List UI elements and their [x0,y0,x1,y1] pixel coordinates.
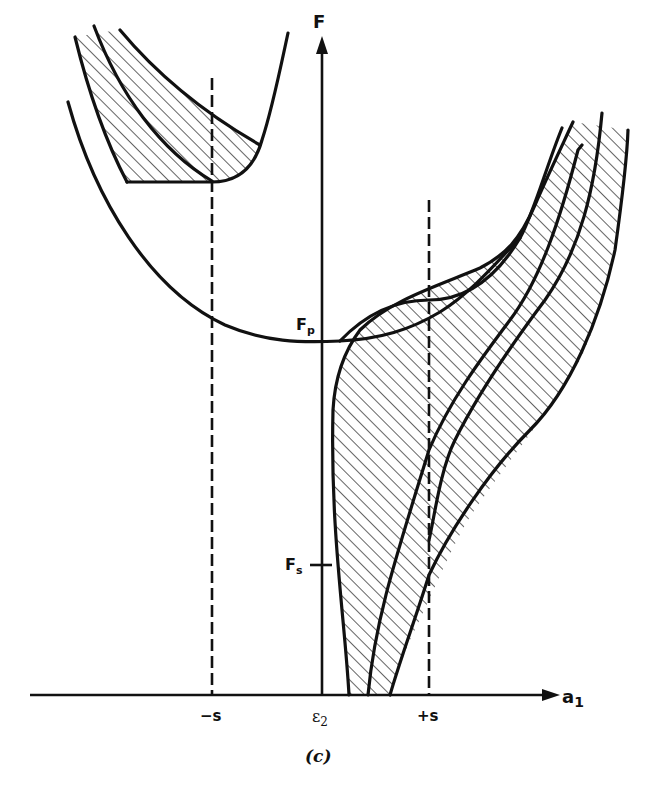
x-axis-label: a1 [562,686,584,710]
x-axis-arrowhead [542,689,560,701]
tick-label-epsilon-2: ε2 [312,707,328,729]
fs-label: Fs [285,555,303,577]
upper-left-hatched-band [75,26,288,182]
y-axis-label: F [313,11,325,32]
figure-caption: (c) [305,746,331,766]
y-axis-arrowhead [316,36,328,54]
fp-label: Fp [296,315,315,337]
diagram-figure: F a1 Fp Fs −s ε2 +s (c) [0,0,649,791]
tick-label-plus-s: +s [417,707,439,725]
right-hatched-band [333,113,628,695]
tick-label-minus-s: −s [200,707,222,725]
